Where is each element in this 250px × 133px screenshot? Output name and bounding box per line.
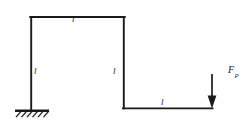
fixed-support — [15, 111, 49, 117]
label-applied-force: FP — [228, 65, 238, 78]
label-bottom-member-length: l — [161, 98, 164, 107]
frame-members — [30, 17, 212, 111]
frame-drawing — [0, 0, 250, 133]
label-top-member-length: l — [72, 15, 75, 24]
force-subscript: P — [234, 72, 238, 79]
point-load-arrow — [208, 74, 217, 109]
label-middle-member-length: l — [113, 67, 116, 76]
statics-frame-figure: l l l l FP — [0, 0, 250, 133]
label-left-member-length: l — [34, 67, 37, 76]
arrow-head — [208, 96, 217, 109]
